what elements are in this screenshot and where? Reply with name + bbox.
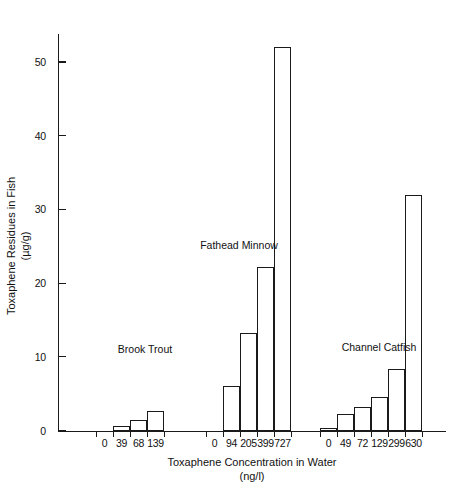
y-tick-label: 0 [0,426,46,437]
x-tick-label: 727 [274,438,291,449]
x-tick-label: 68 [133,438,144,449]
x-tick [291,431,292,437]
x-tick [320,431,321,437]
group-label-fathead-minnow: Fathead Minnow [200,240,278,251]
group-label-channel-catfish: Channel Catfish [342,342,417,353]
y-tick-label: 50 [0,57,46,68]
bar [405,195,422,431]
x-tick-label: 0 [102,438,108,449]
x-tick-label: 399 [257,438,274,449]
y-axis-title-units: (µg/g) [18,146,32,346]
bar [240,333,257,431]
x-tick [113,431,114,437]
bar-chart: 01020304050 0396813909420539972704972129… [0,0,469,491]
x-tick [223,431,224,437]
x-tick-label: 0 [212,438,218,449]
bar [130,420,147,431]
group-label-brook-trout: Brook Trout [118,344,172,355]
y-tick-label: 10 [0,352,46,363]
bar [371,397,388,430]
bar [147,411,164,430]
y-axis-line [58,34,59,432]
x-tick [164,431,165,437]
x-tick-label: 72 [357,438,368,449]
x-tick-label: 49 [340,438,351,449]
x-axis-title: Toxaphene Concentration in Water (ng/l) [58,455,446,483]
y-tick-20 [59,283,66,284]
bar [113,426,130,430]
bar [223,386,240,430]
x-tick [206,431,207,437]
bar [354,407,371,431]
x-tick-label: 299 [388,438,405,449]
y-axis-title-text: Toxaphene Residues in Fish [5,177,17,315]
x-tick-label: 94 [226,438,237,449]
bar [257,267,274,431]
y-axis-title: Toxaphene Residues in Fish (µg/g) [4,146,32,346]
bar [337,414,354,431]
x-tick-label: 39 [116,438,127,449]
x-tick-label: 129 [371,438,388,449]
x-tick-label: 139 [147,438,164,449]
x-tick-label: 205 [240,438,257,449]
x-tick [130,431,131,437]
y-tick-40 [59,135,66,136]
x-tick [96,431,97,437]
x-tick [354,431,355,437]
y-tick-0 [59,430,66,431]
x-tick [422,431,423,437]
bar [388,369,405,430]
x-tick [337,431,338,437]
y-tick-30 [59,209,66,210]
x-tick-label: 630 [405,438,422,449]
y-tick-50 [59,61,66,62]
x-axis-title-text: Toxaphene Concentration in Water [58,455,446,469]
x-axis-title-units: (ng/l) [58,469,446,483]
bar [320,428,337,431]
y-tick-10 [59,356,66,357]
y-tick-label: 40 [0,131,46,142]
x-tick-label: 0 [326,438,332,449]
